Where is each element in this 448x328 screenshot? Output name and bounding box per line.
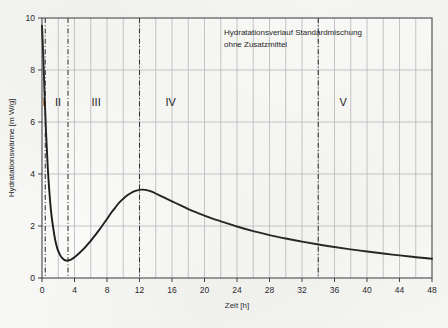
- x-axis-tick-label: 8: [105, 285, 110, 295]
- y-axis-tick-label: 0: [30, 273, 35, 283]
- x-axis-tick-label: 4: [72, 285, 77, 295]
- x-axis-tick-label: 16: [167, 285, 177, 295]
- y-axis-ticks: [38, 18, 42, 278]
- x-axis-tick-label: 20: [200, 285, 210, 295]
- phase-label-iii: III: [92, 96, 101, 108]
- phase-label-i: I: [42, 96, 45, 108]
- x-axis-ticks: [42, 278, 432, 282]
- x-axis-tick-label: 32: [297, 285, 307, 295]
- phase-label-ii: II: [55, 96, 61, 108]
- x-axis-tick-label: 28: [265, 285, 275, 295]
- y-axis-tick-label: 10: [26, 13, 36, 23]
- chart-annotation-line-2: ohne Zusatzmittel: [224, 40, 287, 49]
- phase-label-v: V: [339, 96, 347, 108]
- hydration-heat-line-chart: 04812162024283236404448 0246810 IIIIIIIV…: [0, 0, 448, 328]
- x-axis-tick-label: 48: [427, 285, 437, 295]
- x-axis-tick-label: 44: [395, 285, 405, 295]
- y-axis-tick-label: 8: [30, 65, 35, 75]
- x-axis-tick-label: 0: [40, 285, 45, 295]
- y-axis-tick-label: 2: [30, 221, 35, 231]
- x-axis-tick-labels: 04812162024283236404448: [40, 285, 437, 295]
- y-axis-tick-label: 4: [30, 169, 35, 179]
- x-axis-tick-label: 24: [232, 285, 242, 295]
- chart-annotation-line-1: Hydratationsverlauf Standardmischung: [224, 28, 362, 37]
- x-axis-tick-label: 12: [135, 285, 145, 295]
- y-axis-title: Hydratationswärme [m W/g]: [7, 99, 16, 198]
- y-axis-tick-labels: 0246810: [26, 13, 36, 283]
- x-axis-tick-label: 40: [362, 285, 372, 295]
- x-axis-tick-label: 36: [330, 285, 340, 295]
- phase-label-iv: IV: [166, 96, 177, 108]
- x-axis-title: Zeit [h]: [225, 301, 249, 310]
- y-axis-tick-label: 6: [30, 117, 35, 127]
- chart-figure: 04812162024283236404448 0246810 IIIIIIIV…: [0, 0, 448, 328]
